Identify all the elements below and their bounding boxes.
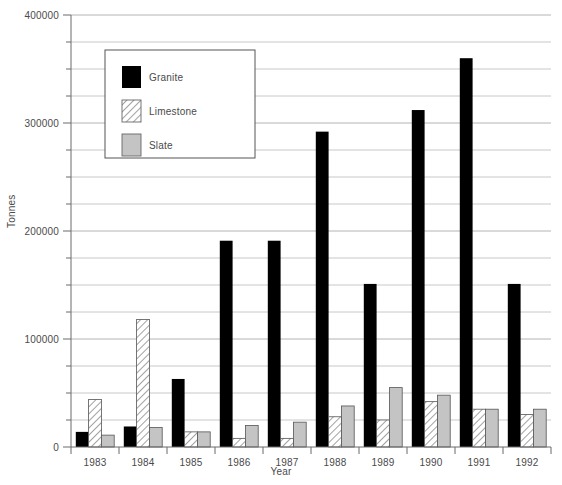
bar-granite-1990 <box>412 110 425 447</box>
bar-slate-1984 <box>149 428 162 447</box>
bar-granite-1985 <box>172 379 185 447</box>
legend: GraniteLimestoneSlate <box>105 50 255 158</box>
bar-granite-1987 <box>268 241 281 447</box>
x-tick-label: 1987 <box>275 457 298 468</box>
bar-slate-1992 <box>533 409 546 447</box>
bar-limestone-1988 <box>329 417 342 447</box>
x-tick-label: 1991 <box>467 457 490 468</box>
bar-limestone-1990 <box>425 402 438 447</box>
y-tick-label: 400000 <box>24 10 59 21</box>
x-tick-labels: 1983198419851986198719881989199019911992 <box>83 457 538 468</box>
bar-slate-1985 <box>197 432 210 447</box>
bar-granite-1989 <box>364 284 377 447</box>
bar-chart: Tonnes Year 0100000200000300000400000 19… <box>0 0 562 485</box>
bar-limestone-1989 <box>377 420 390 447</box>
x-tick-label: 1990 <box>419 457 442 468</box>
bar-limestone-1991 <box>473 409 486 447</box>
bar-slate-1988 <box>341 406 354 447</box>
x-tick-label: 1984 <box>131 457 154 468</box>
legend-swatch-granite <box>122 66 141 88</box>
bar-slate-1983 <box>101 435 114 447</box>
bar-granite-1991 <box>460 58 473 447</box>
y-tick-label: 0 <box>53 442 59 453</box>
bar-granite-1988 <box>316 132 329 447</box>
bar-limestone-1992 <box>521 415 534 447</box>
x-tick-label: 1989 <box>371 457 394 468</box>
y-tick-labels: 0100000200000300000400000 <box>24 10 59 453</box>
bar-granite-1983 <box>76 432 89 447</box>
y-tick-label: 300000 <box>24 118 59 129</box>
bar-limestone-1986 <box>233 438 246 447</box>
legend-label-granite: Granite <box>149 72 183 83</box>
y-tick-marks <box>63 15 71 447</box>
bar-slate-1991 <box>485 409 498 447</box>
x-tick-label: 1988 <box>323 457 346 468</box>
bar-slate-1987 <box>293 422 306 447</box>
x-tick-marks <box>71 447 551 454</box>
bar-slate-1990 <box>437 395 450 447</box>
x-tick-label: 1983 <box>83 457 106 468</box>
bar-granite-1984 <box>124 426 137 447</box>
legend-label-slate: Slate <box>149 140 173 151</box>
bar-slate-1989 <box>389 388 402 447</box>
x-tick-label: 1992 <box>515 457 538 468</box>
bar-limestone-1985 <box>185 432 198 447</box>
legend-swatch-slate <box>122 134 141 156</box>
bar-granite-1992 <box>508 284 521 447</box>
bar-slate-1986 <box>245 425 258 447</box>
y-tick-label: 100000 <box>24 334 59 345</box>
x-tick-label: 1986 <box>227 457 250 468</box>
y-tick-label: 200000 <box>24 226 59 237</box>
bar-granite-1986 <box>220 241 233 447</box>
bar-limestone-1987 <box>281 438 294 447</box>
plot-area: 0100000200000300000400000 19831984198519… <box>0 0 562 485</box>
bar-limestone-1984 <box>137 320 150 447</box>
legend-swatch-limestone <box>122 100 141 122</box>
x-tick-label: 1985 <box>179 457 202 468</box>
bar-limestone-1983 <box>89 399 102 447</box>
legend-label-limestone: Limestone <box>149 106 197 117</box>
